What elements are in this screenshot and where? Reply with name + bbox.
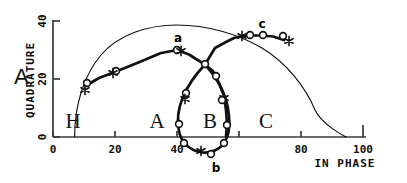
y-tick-label-40: 40: [36, 14, 49, 27]
x-tick-label-0: 0: [50, 143, 57, 156]
curve-measured-right-branch: [205, 36, 284, 65]
data-markers: [81, 31, 293, 157]
region-label-a: A: [149, 109, 165, 133]
y-tick-label-20: 20: [36, 72, 49, 85]
x-axis-title: IN PHASE: [315, 157, 376, 170]
region-labels: H A B C: [65, 109, 273, 133]
y-tick-label-0: 0: [36, 134, 49, 141]
region-label-h: H: [65, 109, 80, 133]
point-label-a: a: [174, 31, 182, 45]
region-label-c: C: [259, 109, 273, 133]
panel-label: A: [14, 64, 29, 89]
x-tick-label-20: 20: [108, 143, 121, 156]
y-axis-ticks: [53, 21, 60, 137]
complex-plane-plot: 0 20 40 80 100 0 20 40 IN PHASE QUADRATU…: [0, 0, 407, 183]
region-label-b: B: [203, 109, 217, 133]
x-tick-label-80: 80: [294, 143, 307, 156]
y-tick-labels: 0 20 40: [36, 14, 49, 140]
figure-panel: 0 20 40 80 100 0 20 40 IN PHASE QUADRATU…: [0, 0, 407, 183]
point-label-c: c: [258, 17, 265, 31]
point-label-b: b: [212, 161, 221, 175]
x-tick-label-100: 100: [353, 143, 373, 156]
curve-measured-left-branch: [87, 50, 205, 85]
